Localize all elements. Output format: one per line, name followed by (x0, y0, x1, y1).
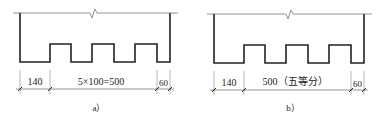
panel-a: 140 5×100=500 60 a） (13, 9, 178, 113)
dim-middle-label: 500（五等分） (263, 75, 328, 87)
dim-left-label: 140 (28, 76, 43, 87)
caption-b: b） (286, 103, 300, 113)
dim-right-label: 60 (353, 79, 363, 89)
tooth-profile (214, 14, 364, 63)
panel-b: 140 500（五等分） 60 b） (207, 10, 372, 113)
dim-right-label: 60 (159, 78, 169, 88)
dim-middle-label: 5×100=500 (78, 76, 124, 87)
tooth-profile (20, 13, 170, 62)
break-line (207, 10, 372, 19)
diagram-canvas: 140 5×100=500 60 a） 140 500（五等分） 60 b） (0, 0, 377, 123)
dim-left-label: 140 (222, 77, 237, 88)
caption-a: a） (93, 103, 106, 113)
break-line (13, 9, 178, 18)
